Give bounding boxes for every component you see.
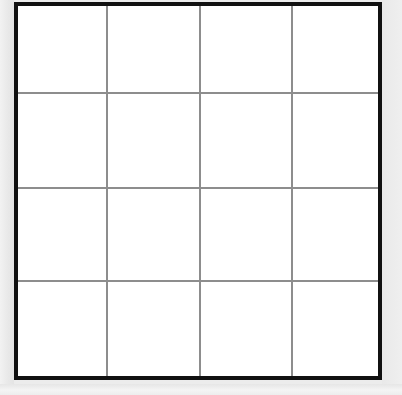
grid-cell-r2-c3[interactable] (199, 92, 291, 187)
grid-container (14, 2, 382, 380)
background-right-edge (382, 0, 402, 395)
grid-cell-r4-c3[interactable] (199, 280, 291, 376)
background-left-edge (0, 0, 14, 395)
grid-cell-r2-c1[interactable] (18, 92, 106, 187)
grid-cell-r2-c2[interactable] (106, 92, 199, 187)
grid-vertical-line-1 (106, 6, 108, 376)
grid-horizontal-line-2 (18, 187, 378, 189)
grid-vertical-line-2 (199, 6, 201, 376)
grid-cell-r1-c1[interactable] (18, 6, 106, 92)
background-bottom-band (0, 384, 402, 395)
grid-cell-r4-c2[interactable] (106, 280, 199, 376)
grid-vertical-line-3 (291, 6, 293, 376)
grid-cell-r1-c2[interactable] (106, 6, 199, 92)
grid-cell-r1-c4[interactable] (291, 6, 378, 92)
grid-cell-r2-c4[interactable] (291, 92, 378, 187)
figure-canvas (0, 0, 402, 395)
grid-cell-r3-c1[interactable] (18, 187, 106, 280)
grid-cell-r4-c4[interactable] (291, 280, 378, 376)
grid-cell-r3-c3[interactable] (199, 187, 291, 280)
grid-cell-r3-c2[interactable] (106, 187, 199, 280)
grid-cell-r1-c3[interactable] (199, 6, 291, 92)
grid-cell-r3-c4[interactable] (291, 187, 378, 280)
grid-horizontal-line-3 (18, 280, 378, 282)
grid-inner-surface (18, 6, 378, 376)
grid-horizontal-line-1 (18, 92, 378, 94)
grid-cell-r4-c1[interactable] (18, 280, 106, 376)
